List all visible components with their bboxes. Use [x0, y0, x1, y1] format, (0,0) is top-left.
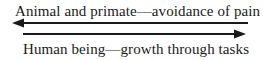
- left-arrow-icon: [12, 19, 248, 28]
- bottom-label-growth-through-tasks: Human being—growth through tasks: [23, 41, 249, 57]
- right-arrow-icon: [23, 30, 246, 39]
